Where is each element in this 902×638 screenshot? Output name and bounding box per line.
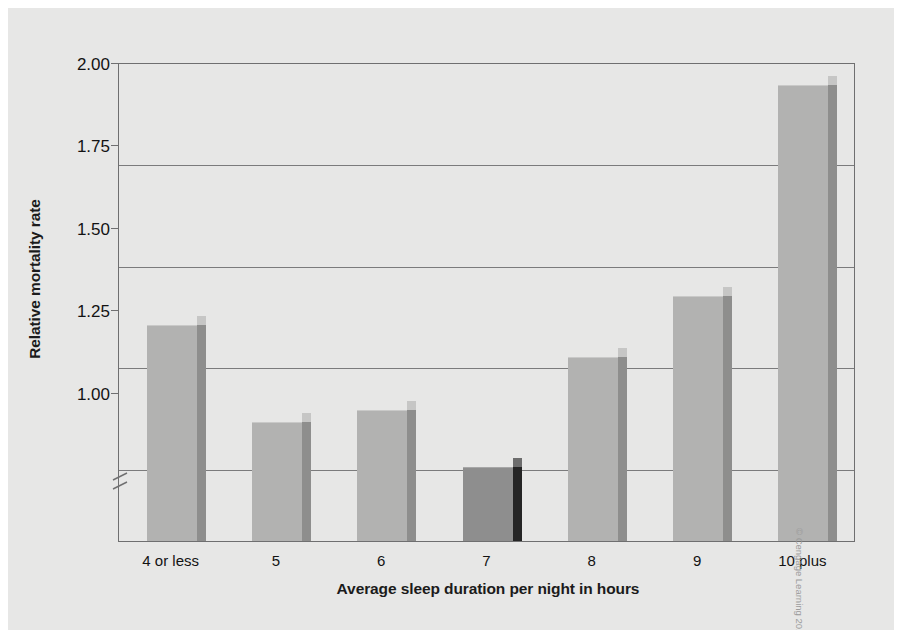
- plot-area: [118, 63, 855, 542]
- figure-panel: Relative mortality rate 2.00 1.75 1.50 1…: [8, 8, 894, 630]
- bar-side-face: [197, 321, 206, 541]
- bar-7: [463, 459, 522, 541]
- bar-side-face: [407, 407, 416, 541]
- bar-side-face: [828, 82, 837, 541]
- x-tick-label-5: 5: [216, 552, 336, 569]
- bar-top-face: [828, 76, 837, 85]
- x-axis-title: Average sleep duration per night in hour…: [118, 580, 858, 598]
- bar-4-or-less: [147, 317, 206, 541]
- copyright-credit: © Cengage Learning 2013: [794, 528, 805, 630]
- gridline-1-5: [119, 267, 854, 268]
- bar-front-face: [778, 85, 828, 541]
- y-tick-label-1-25: 1.25: [26, 302, 110, 322]
- bar-front-face: [673, 296, 723, 541]
- bar-front-face: [463, 467, 513, 541]
- bar-top-face: [302, 413, 311, 422]
- x-tick-label-9: 9: [637, 552, 757, 569]
- bar-side-face: [302, 419, 311, 541]
- bar-top-face: [618, 348, 627, 357]
- bar-9: [673, 288, 732, 541]
- x-tick-label-7: 7: [427, 552, 547, 569]
- bar-8: [568, 349, 627, 541]
- bar-6: [357, 402, 416, 541]
- bar-top-face: [723, 287, 732, 296]
- bar-top-face: [513, 458, 522, 467]
- y-tick-label-1-00: 1.00: [26, 385, 110, 405]
- bar-front-face: [357, 410, 407, 541]
- y-tick-label-1-75: 1.75: [26, 137, 110, 157]
- bar-10-plus: [778, 77, 837, 541]
- x-tick-label-6: 6: [321, 552, 441, 569]
- bar-top-face: [197, 316, 206, 325]
- y-tick-label-1-50: 1.50: [26, 220, 110, 240]
- bar-front-face: [252, 422, 302, 541]
- bar-front-face: [568, 357, 618, 541]
- bar-side-face: [723, 293, 732, 541]
- bar-5: [252, 414, 311, 541]
- bar-top-face: [407, 401, 416, 410]
- gridline-1-75: [119, 165, 854, 166]
- x-tick-label-8: 8: [532, 552, 652, 569]
- x-tick-label-4-or-less: 4 or less: [111, 552, 231, 569]
- bar-side-face: [618, 354, 627, 541]
- y-tick-label-2-00: 2.00: [26, 55, 110, 75]
- bar-front-face: [147, 325, 197, 541]
- y-axis-title: Relative mortality rate: [26, 174, 44, 384]
- bar-side-face: [513, 463, 522, 541]
- gridline-1-25: [119, 368, 854, 369]
